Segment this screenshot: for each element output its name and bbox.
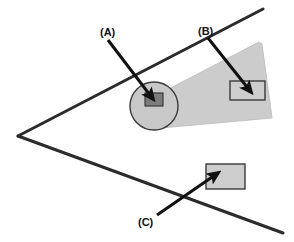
callout-label-a: (A) bbox=[100, 26, 116, 38]
diagram-svg: (A) (B) (C) bbox=[0, 0, 294, 242]
dark-rectangle bbox=[145, 93, 163, 106]
upper-light-rectangle bbox=[230, 81, 265, 100]
callout-label-c: (C) bbox=[138, 216, 154, 228]
callout-arrow-c bbox=[157, 173, 218, 215]
figure-canvas: (A) (B) (C) bbox=[0, 0, 294, 242]
callout-label-b: (B) bbox=[198, 25, 214, 37]
